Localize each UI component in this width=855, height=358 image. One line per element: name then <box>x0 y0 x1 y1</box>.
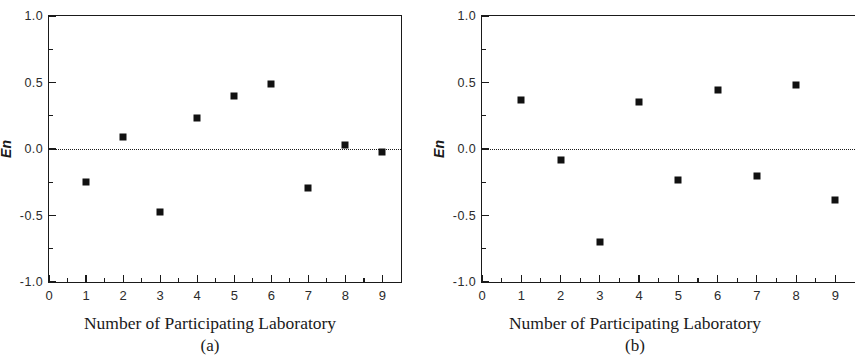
y-tick-major <box>49 82 56 83</box>
x-tick-minor <box>252 278 253 282</box>
x-tick-label: 5 <box>231 288 238 303</box>
x-tick-label: 9 <box>832 288 839 303</box>
x-tick-label: 7 <box>753 288 760 303</box>
data-point-marker <box>194 115 201 122</box>
x-tick-label: 2 <box>119 288 126 303</box>
x-tick-label: 1 <box>518 288 525 303</box>
x-tick-minor <box>289 278 290 282</box>
data-point-marker <box>596 239 603 246</box>
x-tick-minor <box>580 278 581 282</box>
x-tick-minor <box>67 278 68 282</box>
y-tick-label: 0.0 <box>24 142 43 156</box>
x-tick-label: 4 <box>635 288 642 303</box>
y-tick-label: 1.0 <box>24 9 43 23</box>
x-tick-major <box>382 275 383 282</box>
panel-b: 1.00.50.0-0.5-1.00123456789 En Number of… <box>433 0 839 358</box>
x-tick-minor <box>363 278 364 282</box>
y-tick-major <box>482 15 489 16</box>
x-tick-major <box>638 275 639 282</box>
x-tick-minor <box>141 278 142 282</box>
x-axis-title-b: Number of Participating Laboratory <box>425 313 845 334</box>
y-tick-label: -1.0 <box>20 275 43 289</box>
x-tick-minor <box>658 278 659 282</box>
x-tick-label: 8 <box>792 288 799 303</box>
data-point-marker <box>342 142 349 149</box>
x-tick-major <box>521 275 522 282</box>
x-tick-major <box>271 275 272 282</box>
x-tick-major <box>234 275 235 282</box>
y-tick-major <box>482 281 489 282</box>
x-axis-title-a: Number of Participating Laboratory <box>0 313 420 334</box>
x-tick-major <box>560 275 561 282</box>
y-tick-label: 0.5 <box>24 76 43 90</box>
panel-caption-a: (a) <box>0 336 420 356</box>
x-tick-label: 6 <box>268 288 275 303</box>
x-tick-minor <box>178 278 179 282</box>
x-tick-minor <box>540 278 541 282</box>
y-tick-minor <box>482 115 486 116</box>
x-tick-minor <box>776 278 777 282</box>
x-tick-minor <box>501 278 502 282</box>
x-tick-major <box>48 275 49 282</box>
x-tick-major <box>756 275 757 282</box>
zero-reference-line-b <box>482 149 855 150</box>
data-point-marker <box>518 96 525 103</box>
x-tick-major <box>599 275 600 282</box>
y-tick-minor <box>49 115 53 116</box>
x-tick-label: 3 <box>596 288 603 303</box>
y-tick-major <box>482 215 489 216</box>
data-point-marker <box>157 208 164 215</box>
data-point-marker <box>557 156 564 163</box>
x-tick-label: 4 <box>194 288 201 303</box>
y-axis-title-a: En <box>0 140 14 158</box>
y-tick-major <box>49 15 56 16</box>
x-tick-major <box>123 275 124 282</box>
y-tick-label: -0.5 <box>453 209 476 223</box>
x-tick-label: 0 <box>478 288 485 303</box>
x-tick-major <box>481 275 482 282</box>
data-point-marker <box>636 99 643 106</box>
x-tick-major <box>197 275 198 282</box>
data-point-marker <box>231 92 238 99</box>
data-point-marker <box>305 184 312 191</box>
data-point-marker <box>120 134 127 141</box>
x-tick-major <box>85 275 86 282</box>
x-tick-minor <box>815 278 816 282</box>
x-tick-minor <box>737 278 738 282</box>
y-tick-label: 0.5 <box>457 76 476 90</box>
y-tick-minor <box>49 49 53 50</box>
y-tick-label: -1.0 <box>453 275 476 289</box>
data-point-marker <box>793 82 800 89</box>
y-tick-major <box>49 215 56 216</box>
y-tick-major <box>482 82 489 83</box>
x-tick-label: 1 <box>82 288 89 303</box>
x-tick-label: 8 <box>342 288 349 303</box>
x-tick-label: 2 <box>557 288 564 303</box>
x-tick-label: 3 <box>157 288 164 303</box>
x-tick-minor <box>104 278 105 282</box>
x-tick-minor <box>326 278 327 282</box>
y-tick-minor <box>482 248 486 249</box>
y-tick-label: -0.5 <box>20 209 43 223</box>
x-tick-major <box>308 275 309 282</box>
x-tick-major <box>796 275 797 282</box>
data-point-marker <box>379 148 386 155</box>
x-tick-major <box>160 275 161 282</box>
data-point-marker <box>832 196 839 203</box>
data-point-marker <box>268 80 275 87</box>
x-tick-major <box>717 275 718 282</box>
x-tick-minor <box>697 278 698 282</box>
x-tick-major <box>678 275 679 282</box>
data-point-marker <box>83 179 90 186</box>
x-tick-minor <box>215 278 216 282</box>
y-tick-label: 1.0 <box>457 9 476 23</box>
zero-reference-line-a <box>49 149 401 150</box>
plot-area-a: 1.00.50.0-0.5-1.00123456789 <box>48 15 402 283</box>
panel-caption-b: (b) <box>425 336 845 356</box>
plot-area-b: 1.00.50.0-0.5-1.00123456789 <box>481 15 855 283</box>
x-tick-major <box>345 275 346 282</box>
y-tick-major <box>49 148 56 149</box>
x-tick-label: 7 <box>305 288 312 303</box>
data-point-marker <box>675 176 682 183</box>
